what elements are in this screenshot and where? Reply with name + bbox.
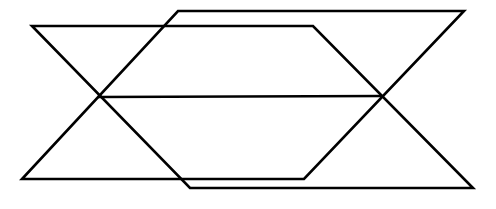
- figure-canvas: Two overlapping parallelograms Line draw…: [0, 0, 496, 209]
- geometry-diagram: [0, 0, 496, 209]
- midline-connector: [99, 96, 381, 97]
- diagram-background: [0, 0, 496, 209]
